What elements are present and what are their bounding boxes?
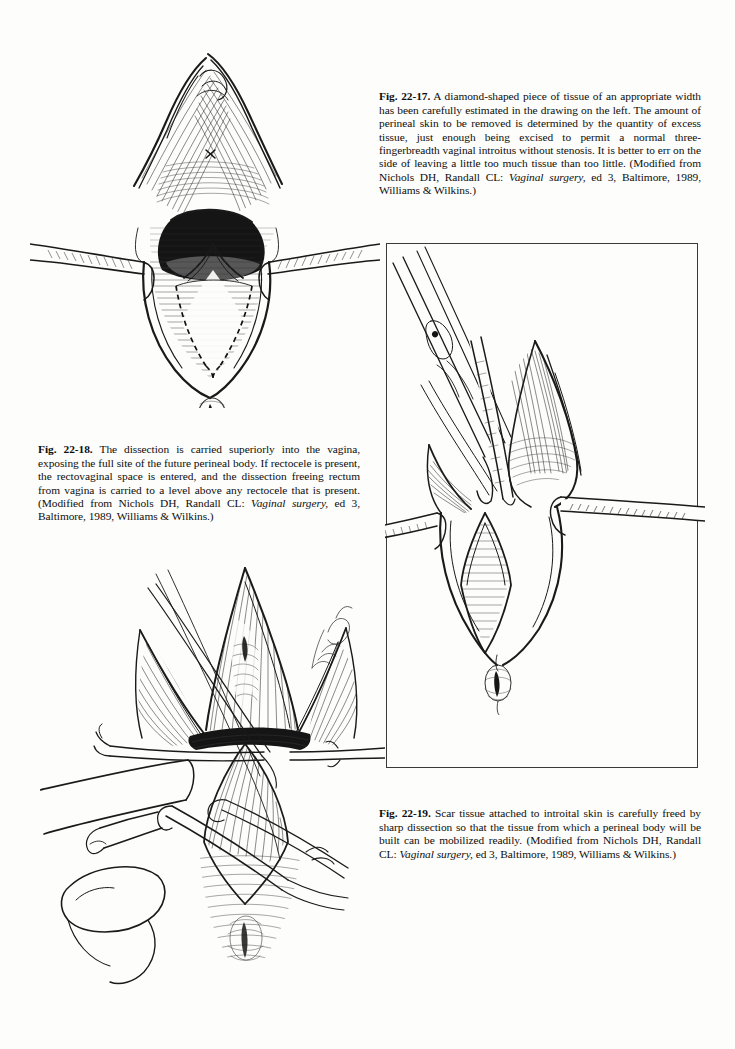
figure-22-18-illustration <box>385 245 705 715</box>
textbook-page: Fig. 22-17. A diamond-shaped piece of ti… <box>0 0 735 1049</box>
caption-italic-22-17: Vaginal surgery, <box>509 171 585 183</box>
caption-body-22-17: A diamond-shaped piece of tissue of an a… <box>379 90 701 182</box>
figure-22-17-illustration <box>30 48 380 408</box>
retractor-blade-left-2 <box>385 513 446 549</box>
anus-detail-2 <box>485 655 511 715</box>
caption-fig-22-17: Fig. 22-17. A diamond-shaped piece of ti… <box>379 90 701 197</box>
caption-label-22-17: Fig. 22-17. <box>379 90 430 102</box>
caption-italic-22-19: Vaginal surgery, <box>399 848 472 860</box>
caption-label-22-18: Fig. 22-18. <box>38 443 93 455</box>
scissors-lower <box>208 800 348 878</box>
caption-label-22-19: Fig. 22-19. <box>379 807 431 819</box>
caption-tail-22-19: ed 3, Baltimore, 1989, Williams & Wilkin… <box>473 848 676 860</box>
x-marking <box>206 150 215 158</box>
figure-22-19-illustration <box>40 560 385 1000</box>
gloved-hand <box>40 760 194 984</box>
caption-italic-22-18: Vaginal surgery, <box>251 497 328 509</box>
retractor-blade-right-2 <box>550 497 705 535</box>
scissors-instrument <box>393 247 511 503</box>
anus-detail <box>198 398 226 408</box>
retractor-blade-right <box>259 244 380 300</box>
caption-fig-22-18: Fig. 22-18. The dissection is carried su… <box>38 443 360 523</box>
caption-fig-22-19: Fig. 22-19. Scar tissue attached to intr… <box>379 807 701 861</box>
anus-detail-3 <box>228 916 263 961</box>
artist-signature <box>312 606 352 668</box>
